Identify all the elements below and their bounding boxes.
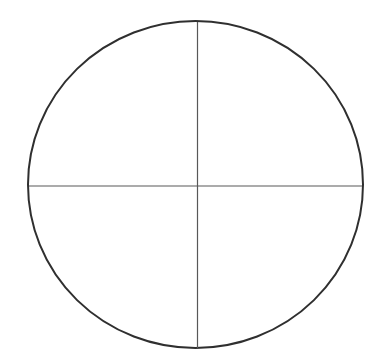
circle-quadrant-diagram: Circle divided into four quadrants by tw… — [0, 0, 388, 356]
circle-outline — [28, 21, 363, 348]
figure-canvas: Circle divided into four quadrants by tw… — [0, 0, 388, 356]
